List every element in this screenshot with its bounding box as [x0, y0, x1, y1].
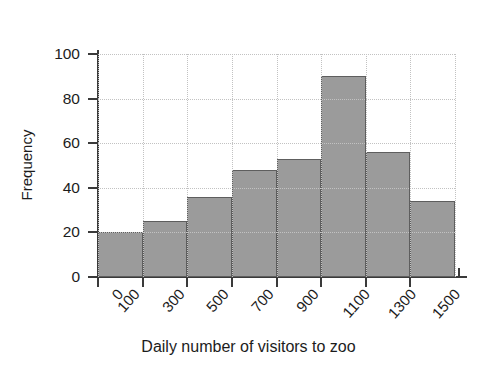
x-axis-tick [409, 276, 411, 287]
x-axis-tick-label: 1500 [429, 286, 463, 322]
x-axis-tick-label: 900 [293, 286, 322, 315]
x-axis-title: Daily number of visitors to zoo [0, 338, 497, 356]
gridline-vertical [455, 54, 456, 277]
gridline-vertical [410, 54, 411, 277]
x-axis-tick-label: 300 [159, 286, 188, 315]
gridline-vertical [232, 54, 233, 277]
bar [98, 232, 143, 277]
y-axis-tick-label: 0 [40, 269, 80, 284]
x-axis-tick [97, 276, 99, 287]
x-axis-tick [186, 276, 188, 287]
bar [187, 197, 232, 277]
bar [321, 76, 366, 277]
bar [277, 159, 322, 277]
bar [143, 221, 188, 277]
histogram-chart: Frequency 020406080100 01003005007009001… [0, 0, 497, 382]
bar [232, 170, 277, 277]
x-axis-tick [276, 276, 278, 287]
y-axis-tick-label: 60 [40, 135, 80, 150]
gridline-vertical [277, 54, 278, 277]
gridline-vertical [143, 54, 144, 277]
x-axis-tick-label: 1300 [385, 286, 419, 322]
x-axis-tick [142, 276, 144, 287]
gridline-vertical [187, 54, 188, 277]
bar [410, 201, 455, 277]
x-axis-tick [320, 276, 322, 287]
y-axis-tick-label: 100 [40, 46, 80, 61]
x-axis-tick [365, 276, 367, 287]
gridline-vertical [321, 54, 322, 277]
x-axis-tick-label: 700 [248, 286, 277, 315]
x-axis-tick [231, 276, 233, 287]
y-axis-tick-label: 80 [40, 91, 80, 106]
gridline-vertical [366, 54, 367, 277]
y-axis-tick-label: 40 [40, 180, 80, 195]
x-axis-tick-label: 500 [204, 286, 233, 315]
y-axis-title: Frequency [18, 0, 40, 100]
x-axis-tick-label: 1100 [340, 286, 373, 321]
bar [366, 152, 411, 277]
y-axis-tick-label: 20 [40, 224, 80, 239]
x-axis-end-tick [458, 268, 460, 278]
gridline-vertical [98, 54, 99, 277]
